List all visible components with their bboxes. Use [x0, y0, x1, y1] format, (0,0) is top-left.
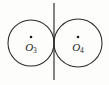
center-label-left-letter: O	[25, 41, 33, 53]
center-label-right-letter: O	[72, 41, 80, 53]
center-label-right: O4	[72, 41, 84, 55]
geometry-figure: O3 O4	[0, 0, 109, 85]
figure-canvas: O3 O4	[0, 0, 109, 85]
center-dot-left	[30, 36, 33, 39]
center-label-right-subscript: 4	[80, 46, 84, 55]
center-dot-right	[77, 36, 80, 39]
center-label-left-subscript: 3	[33, 46, 37, 55]
center-label-left: O3	[25, 41, 37, 55]
